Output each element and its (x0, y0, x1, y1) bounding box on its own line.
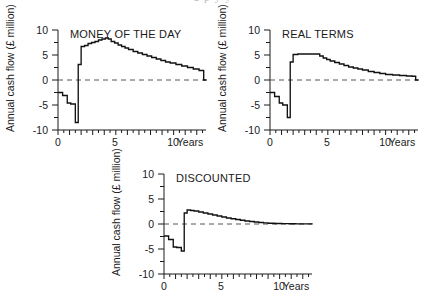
y-tick-label: 0 (254, 74, 260, 86)
y-tick-labels: 10 5 0 -5 -10 (139, 168, 154, 280)
y-tick-label: -10 (139, 268, 154, 280)
data-series-line (164, 210, 313, 251)
x-tick-label: 5 (218, 280, 224, 292)
y-tick-labels: 10 5 0 -5 -10 (245, 24, 260, 136)
cropped-caption-text: a p y y (0, 0, 426, 3)
chart-discounted-svg: Annual cash flow (£ million) 10 (106, 156, 320, 296)
x-tick-labels: 0 5 10 Years (161, 280, 309, 292)
y-tick-label: 5 (148, 193, 154, 205)
y-tick-label: 0 (42, 74, 48, 86)
y-tick-label: 5 (42, 49, 48, 61)
y-axis-title: Annual cash flow (£ million) (4, 4, 16, 132)
panel-title: MONEY OF THE DAY (70, 28, 182, 40)
cropped-caption-bleed: a p y y (0, 0, 426, 9)
panel-title: REAL TERMS (282, 28, 354, 40)
y-tick-label: 10 (142, 168, 154, 180)
y-axis-title: Annual cash flow (£ million) (110, 148, 122, 276)
y-tick-label: 5 (254, 49, 260, 61)
y-tick-labels: 10 5 0 -5 -10 (33, 24, 48, 136)
x-tick-marks (270, 130, 415, 135)
plot-area: 10 5 0 -5 -10 0 5 10 Years MONEY OF THE … (33, 24, 207, 148)
chart-money-of-the-day-svg: Annual cash flow (£ million) 10 (0, 12, 214, 152)
plot-area: 10 5 0 -5 -10 0 5 10 Years REAL TERMS (245, 24, 419, 148)
x-tick-label: 5 (112, 136, 118, 148)
y-tick-label: 0 (148, 218, 154, 230)
chart-real-terms-svg: Annual cash flow (£ million) 10 (212, 12, 426, 152)
x-tick-marks (58, 130, 203, 135)
x-tick-labels: 0 5 10 Years (55, 136, 203, 148)
x-tick-label: 0 (161, 280, 167, 292)
x-tick-label: 0 (55, 136, 61, 148)
y-tick-label: -5 (251, 99, 260, 111)
x-axis-title: Years (283, 280, 309, 292)
y-tick-label: -5 (39, 99, 48, 111)
x-tick-marks (164, 274, 309, 279)
y-tick-label: -10 (245, 124, 260, 136)
y-axis-title-group: Annual cash flow (£ million) (110, 148, 122, 276)
panel-title: DISCOUNTED (176, 172, 251, 184)
y-tick-label: 10 (36, 24, 48, 36)
figure-panel-group: a p y y Annual cash flow (£ million) (0, 0, 426, 296)
y-tick-marks (158, 174, 164, 274)
y-tick-label: -10 (33, 124, 48, 136)
y-axis-title: Annual cash flow (£ million) (216, 4, 228, 132)
plot-area: 10 5 0 -5 -10 0 5 10 Years DISCOUNTED (139, 168, 313, 292)
y-tick-label: 10 (248, 24, 260, 36)
x-tick-labels: 0 5 10 Years (267, 136, 415, 148)
x-tick-label: 0 (267, 136, 273, 148)
y-tick-label: -5 (145, 243, 154, 255)
data-series-line (270, 54, 419, 118)
x-axis-title: Years (389, 136, 415, 148)
chart-real-terms: Annual cash flow (£ million) 10 (212, 12, 426, 152)
x-tick-label: 5 (324, 136, 330, 148)
y-axis-title-group: Annual cash flow (£ million) (4, 4, 16, 132)
y-tick-marks (264, 30, 270, 130)
chart-discounted: Annual cash flow (£ million) 10 (106, 156, 320, 296)
y-axis-title-group: Annual cash flow (£ million) (216, 4, 228, 132)
y-tick-marks (52, 30, 58, 130)
x-axis-title: Years (177, 136, 203, 148)
chart-money-of-the-day: Annual cash flow (£ million) 10 (0, 12, 214, 152)
